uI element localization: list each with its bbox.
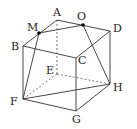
label-c: C <box>78 55 86 66</box>
cube-drawing <box>0 0 137 129</box>
label-a: A <box>53 7 61 18</box>
label-f: F <box>10 96 18 107</box>
label-m: M <box>27 22 38 33</box>
label-h: H <box>113 82 123 93</box>
label-o: O <box>77 11 86 22</box>
label-e: E <box>46 65 54 76</box>
cube-diagram: A D B C M O E H F G <box>0 0 137 129</box>
point-o-dot <box>81 23 85 27</box>
label-b: B <box>11 41 19 52</box>
label-g: G <box>72 114 81 125</box>
label-d: D <box>113 23 122 34</box>
